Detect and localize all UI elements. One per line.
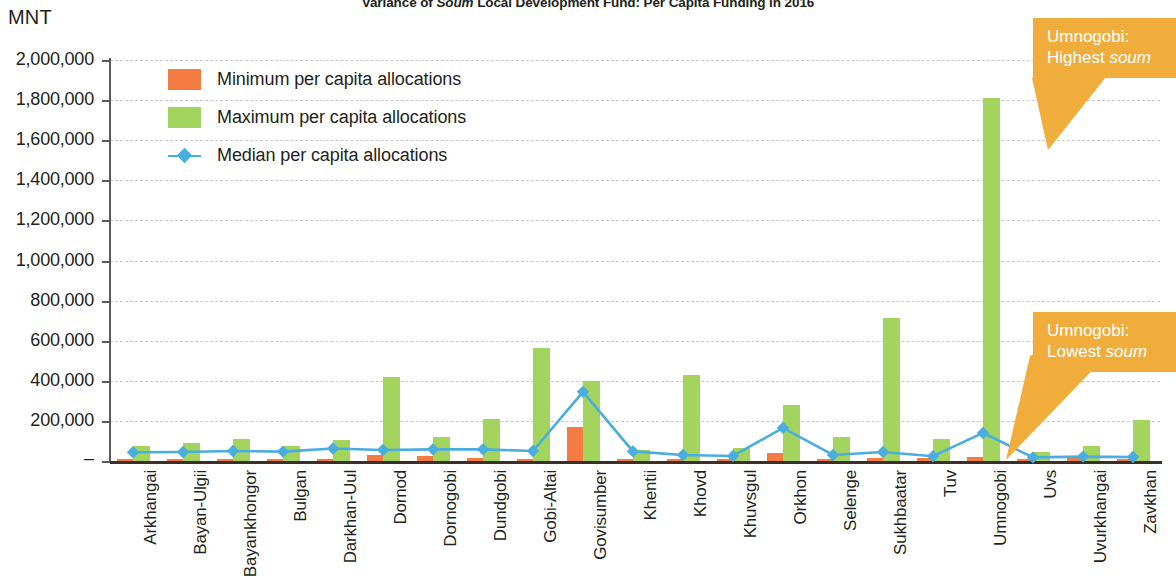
bar-maximum (483, 419, 500, 461)
y-tick-label: 1,200,000 (16, 209, 94, 230)
gridline (110, 261, 1160, 262)
x-axis-category-label: Govisumber (591, 470, 611, 560)
x-axis-category-label: Dundgobi (491, 470, 511, 541)
bar-maximum (283, 446, 300, 461)
chart-title-italic: Soum (436, 0, 473, 10)
y-tick-label: 1,400,000 (16, 169, 94, 190)
gridline (110, 301, 1160, 302)
x-axis-category-label: Khovd (691, 470, 711, 517)
x-axis-category-label: Tuv (941, 470, 961, 497)
gridline (110, 341, 1160, 342)
x-axis-category-label: Bayan-Ulgii (191, 470, 211, 555)
bar-maximum (1133, 420, 1150, 461)
x-axis-line (110, 461, 1162, 464)
x-axis-category-label: Zavkhan (1141, 470, 1161, 534)
chart-canvas: Variance of Soum Local Development Fund:… (0, 0, 1176, 586)
highest-soum-callout-line2-italic: soum (1109, 48, 1151, 67)
bar-maximum (533, 348, 550, 461)
lowest-soum-callout-line1: Umnogobi: (1047, 321, 1164, 342)
legend-label-maximum: Maximum per capita allocations (217, 107, 466, 128)
y-tick-label: 1,800,000 (16, 89, 94, 110)
bar-maximum (133, 446, 150, 461)
bar-maximum (883, 318, 900, 461)
x-axis-category-label: Dornogobi (441, 470, 461, 547)
legend-line-diamond-median-icon (168, 145, 201, 166)
x-axis-category-label: Arkhangai (141, 470, 161, 545)
y-tick-label: 1,000,000 (16, 250, 94, 271)
gridline (110, 220, 1160, 221)
legend-item-median: Median per capita allocations (168, 136, 598, 174)
x-axis-category-label: Orkhon (791, 470, 811, 525)
highest-soum-callout: Umnogobi: Highest soum (1033, 18, 1176, 78)
legend-item-minimum: Minimum per capita allocations (168, 60, 598, 98)
lowest-soum-callout-line2-italic: soum (1106, 342, 1148, 361)
x-axis-category-label: Bulgan (291, 470, 311, 522)
bar-maximum (983, 98, 1000, 461)
y-axis-line (109, 58, 111, 463)
bar-maximum (233, 439, 250, 461)
highest-soum-callout-line2-prefix: Highest (1047, 48, 1109, 67)
x-axis-category-label: Darkhan-Uul (341, 470, 361, 563)
x-axis-category-label: Dornod (391, 470, 411, 525)
bar-maximum (733, 448, 750, 461)
chart-legend: Minimum per capita allocations Maximum p… (168, 60, 598, 174)
bar-maximum (333, 440, 350, 461)
x-axis-category-label: Khuvsgul (741, 470, 761, 538)
chart-title-suffix: Local Development Fund: Per Capita Fundi… (474, 0, 815, 10)
bar-maximum (683, 375, 700, 461)
gridline (110, 421, 1160, 422)
legend-label-minimum: Minimum per capita allocations (217, 69, 461, 90)
bar-maximum (383, 377, 400, 461)
x-axis-category-label: Umnogobi (991, 470, 1011, 546)
lowest-soum-callout-line2-prefix: Lowest (1047, 342, 1106, 361)
x-axis-category-label: Uvurkhangai (1091, 470, 1111, 563)
x-axis-category-label: Khentii (641, 470, 661, 521)
y-tick-label: 1,600,000 (16, 129, 94, 150)
y-tick-label: 2,000,000 (16, 49, 94, 70)
x-axis-category-label: Bayankhongor (241, 470, 261, 577)
y-tick-label: 600,000 (30, 330, 94, 351)
highest-soum-callout-line2: Highest soum (1047, 48, 1164, 69)
x-axis-category-label: Selenge (841, 470, 861, 531)
chart-title: Variance of Soum Local Development Fund:… (0, 0, 1176, 10)
legend-item-maximum: Maximum per capita allocations (168, 98, 598, 136)
legend-swatch-maximum-icon (168, 107, 201, 128)
bar-maximum (433, 437, 450, 461)
x-axis-category-label: Gobi-Altai (541, 470, 561, 543)
y-tick-label: 400,000 (30, 370, 94, 391)
gridline (110, 180, 1160, 181)
bar-maximum (183, 443, 200, 461)
bar-maximum (583, 381, 600, 461)
x-axis-category-label: Uvs (1041, 470, 1061, 499)
y-tick-label: 200,000 (30, 410, 94, 431)
legend-swatch-minimum-icon (168, 69, 201, 90)
gridline (110, 381, 1160, 382)
bar-maximum (783, 405, 800, 461)
bar-maximum (1083, 446, 1100, 461)
bar-maximum (633, 450, 650, 461)
bar-maximum (1033, 452, 1050, 461)
lowest-soum-callout: Umnogobi: Lowest soum (1033, 312, 1176, 372)
y-axis-unit-label: MNT (8, 6, 52, 29)
x-axis-category-label: Sukhbaatar (891, 470, 911, 555)
lowest-soum-callout-line2: Lowest soum (1047, 342, 1164, 363)
y-tick-label: – (84, 448, 94, 469)
highest-soum-callout-line1: Umnogobi: (1047, 27, 1164, 48)
bar-maximum (833, 437, 850, 461)
bar-maximum (933, 439, 950, 461)
y-tick-label: 800,000 (30, 290, 94, 311)
chart-title-prefix: Variance of (362, 0, 437, 10)
legend-label-median: Median per capita allocations (217, 145, 447, 166)
